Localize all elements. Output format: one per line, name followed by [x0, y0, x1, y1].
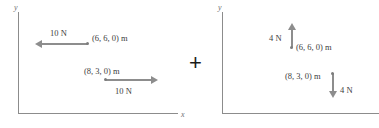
vector-right-upper-magnitude-label: 4 N: [269, 33, 282, 43]
force-system-b-panel: y 4 N (6, 6, 0) m (8, 3, 0) m 4 N: [190, 0, 379, 128]
vector-shaft: [291, 28, 293, 48]
y-axis-label-left: y: [14, 4, 18, 12]
vector-right-upper-position-label: (6, 6, 0) m: [296, 42, 332, 52]
vector-left-lower-position-label: (8, 3, 0) m: [84, 66, 120, 76]
application-point-dot: [104, 78, 107, 81]
vector-shaft: [40, 43, 88, 45]
x-axis-label-left: x: [181, 111, 185, 119]
y-axis-right: [222, 12, 223, 113]
vector-right-lower: [332, 73, 334, 93]
arrowhead-right-icon: [151, 76, 158, 84]
application-point-dot: [331, 72, 334, 75]
vector-right-lower-magnitude-label: 4 N: [340, 85, 353, 95]
x-axis-left: [18, 113, 178, 114]
vector-left-upper: [40, 43, 88, 45]
x-axis-right: [222, 113, 379, 114]
vector-left-upper-magnitude-label: 10 N: [50, 28, 67, 38]
arrowhead-left-icon: [35, 40, 42, 48]
force-system-a-panel: y x 10 N (6, 6, 0) m (8, 3, 0) m 10 N: [0, 0, 190, 128]
application-point-dot: [290, 46, 293, 49]
application-point-dot: [86, 42, 89, 45]
force-diagram: y x 10 N (6, 6, 0) m (8, 3, 0) m 10 N + …: [0, 0, 379, 128]
vector-left-upper-position-label: (6, 6, 0) m: [92, 33, 128, 43]
arrowhead-down-icon: [329, 91, 337, 98]
vector-shaft: [105, 79, 153, 81]
y-axis-left: [18, 12, 19, 113]
vector-left-lower-magnitude-label: 10 N: [115, 86, 132, 96]
vector-shaft: [332, 73, 334, 93]
vector-left-lower: [105, 79, 153, 81]
vector-right-upper: [291, 28, 293, 48]
arrowhead-up-icon: [288, 23, 296, 30]
vector-right-lower-position-label: (8, 3, 0) m: [285, 71, 321, 81]
y-axis-label-right: y: [218, 4, 222, 12]
